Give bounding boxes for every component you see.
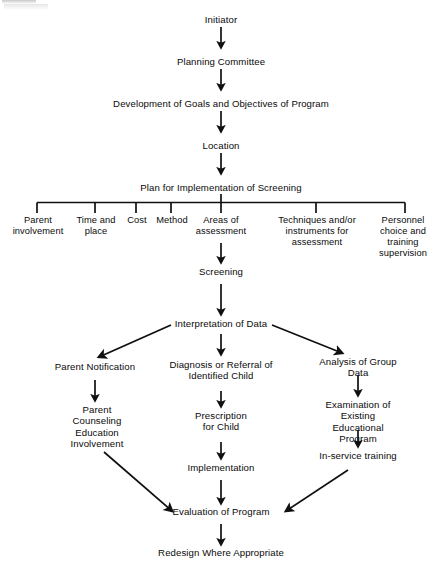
node-plan-for-implementation: Plan for Implementation of Screening xyxy=(140,182,301,193)
node-development-of-goals: Development of Goals and Objectives of P… xyxy=(113,98,329,109)
node-parent-notification: Parent Notification xyxy=(55,361,135,372)
node-examination-existing: Examination of Existing Educational Prog… xyxy=(319,399,398,444)
node-evaluation-of-program: Evaluation of Program xyxy=(172,506,269,517)
node-interpretation-of-data: Interpretation of Data xyxy=(175,318,267,329)
node-inservice-training: In-service training xyxy=(319,450,397,461)
node-prescription-for-child: Prescription for Child xyxy=(195,410,247,433)
node-screening: Screening xyxy=(199,266,243,277)
node-personnel-choice: Personnel choice and training supervisio… xyxy=(379,215,427,259)
node-diagnosis-referral: Diagnosis or Referral of Identified Chil… xyxy=(169,359,272,382)
node-areas-of-assessment: Areas of assessment xyxy=(196,215,247,237)
node-method: Method xyxy=(156,215,188,226)
node-implementation: Implementation xyxy=(188,462,255,473)
node-cost: Cost xyxy=(127,215,147,226)
node-location: Location xyxy=(202,140,239,151)
flowchart-connectors xyxy=(0,0,437,581)
node-analysis-of-group-data: Analysis of Group Data xyxy=(319,356,398,379)
node-parent-involvement: Parent involvement xyxy=(13,215,64,237)
edge-interpretation-parent-notification xyxy=(99,325,171,357)
node-techniques-instruments: Techniques and/or instruments for assess… xyxy=(278,215,356,248)
node-time-and-place: Time and place xyxy=(76,215,115,237)
flowchart-canvas: Initiator Planning Committee Development… xyxy=(0,0,437,581)
node-initiator: Initiator xyxy=(205,14,237,25)
edge-interpretation-analysis xyxy=(272,325,342,353)
node-redesign-where-appropriate: Redesign Where Appropriate xyxy=(158,547,284,558)
node-planning-committee: Planning Committee xyxy=(177,56,265,67)
node-parent-counseling: Parent Counseling Education Involvement xyxy=(71,404,124,449)
edge-inservice-evaluation xyxy=(286,470,348,511)
edge-counseling-evaluation xyxy=(104,452,172,511)
